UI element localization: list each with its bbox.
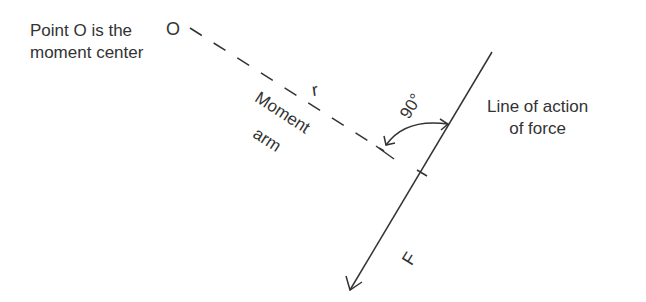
- line-of-action: [350, 52, 492, 290]
- line-of-action-line2: of force: [487, 118, 588, 140]
- moment-center-line1: Point O is the: [30, 20, 143, 42]
- line-of-action-label: Line of action of force: [487, 96, 588, 140]
- point-o-symbol: O: [166, 18, 180, 40]
- moment-center-line2: moment center: [30, 42, 143, 64]
- line-of-action-line1: Line of action: [487, 96, 588, 118]
- moment-arm-end-tick: [376, 146, 394, 159]
- moment-center-label: Point O is the moment center: [30, 20, 143, 64]
- moment-arm-line: [190, 28, 384, 151]
